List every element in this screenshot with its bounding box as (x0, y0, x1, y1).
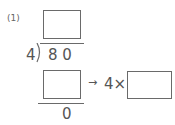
quotient-answer-box[interactable] (43, 10, 81, 39)
product-answer-box[interactable] (43, 70, 81, 99)
multiply-answer-box[interactable] (127, 71, 172, 99)
arrow-icon: → (88, 76, 97, 89)
division-bracket-icon (36, 43, 43, 63)
divisor: 4 (26, 48, 36, 63)
dividend: 8 0 (48, 48, 72, 63)
subtraction-line (38, 103, 84, 104)
remainder: 0 (62, 107, 72, 122)
problem-number: (1) (7, 13, 20, 23)
division-bar (40, 43, 84, 44)
multiply-expression: 4× (104, 77, 126, 92)
